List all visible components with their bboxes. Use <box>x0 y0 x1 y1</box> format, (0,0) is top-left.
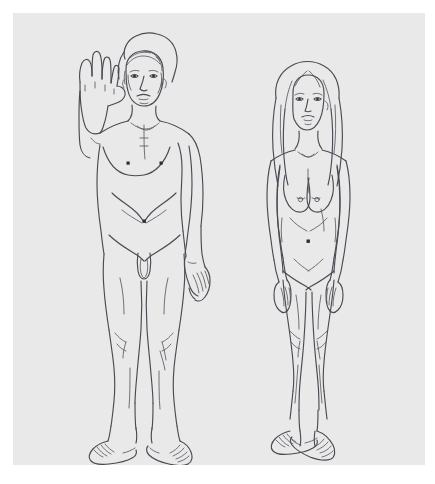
male-nipple-left-mark <box>127 162 130 165</box>
illustration-panel <box>13 13 425 465</box>
human-figures-illustration <box>13 13 425 465</box>
male-figure <box>79 33 210 465</box>
female-figure <box>267 62 350 461</box>
female-navel-mark <box>307 240 310 243</box>
male-nipple-right-mark <box>160 162 163 165</box>
male-navel-mark <box>143 220 146 223</box>
